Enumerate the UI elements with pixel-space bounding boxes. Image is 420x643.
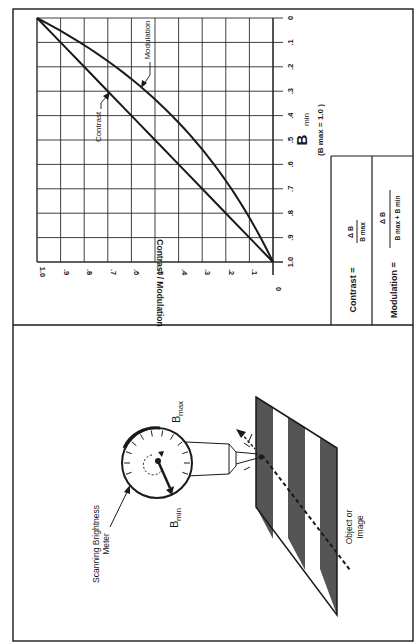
svg-text:B: B (293, 134, 310, 145)
x-tick-label: 0 (286, 16, 295, 20)
meter-dial (122, 428, 192, 498)
figure: 0.1.2.3.4.5.6.7.8.91.0 0.1.2.3.4.5.6.7.8… (0, 0, 420, 643)
y-tick-label: .7 (109, 269, 118, 275)
contrast-formula-den: B max (359, 222, 366, 242)
contrast-formula-num: Δ B (347, 226, 354, 238)
object-label-line2: Image (355, 515, 365, 539)
x-tick-label: .4 (286, 112, 295, 119)
meter-label-line1: Scanning Brightness (91, 505, 101, 583)
x-tick-label: .9 (286, 234, 295, 240)
modulation-formula-lhs: Modulation = (389, 262, 399, 318)
modulation-formula-num: Δ B (379, 212, 386, 224)
x-tick-label: .6 (286, 161, 295, 167)
svg-text:max: max (176, 401, 185, 416)
y-tick-label: .4 (180, 269, 189, 276)
svg-text:min: min (302, 113, 311, 126)
x-tick-label: .1 (286, 39, 295, 45)
light-rays (244, 434, 252, 470)
bmax-label: B max (170, 401, 185, 423)
y-tick-label: 1.0 (38, 267, 47, 277)
y-tick-label: .8 (85, 269, 94, 275)
x-tick-label: .2 (286, 64, 295, 70)
y-axis-label: Contrast / Modulation (155, 239, 165, 326)
y-tick-label: .6 (132, 269, 141, 275)
x-axis-label: B min (293, 113, 311, 145)
y-tick-label: .2 (227, 269, 236, 275)
object-label-line1: Object or (344, 510, 354, 545)
contrast-label: Contrast (94, 111, 103, 142)
x-tick-label: .8 (286, 210, 295, 216)
x-tick-label: .7 (286, 186, 295, 192)
striped-object (256, 397, 337, 615)
modulation-label: Modulation (143, 20, 152, 59)
illustration-panel: B max B min Scanning Brightness Meter Ob… (91, 397, 365, 615)
contrast-formula-lhs: Contrast = (348, 268, 358, 313)
y-tick-label: 0 (274, 287, 283, 291)
x-axis-note: (B max = 1.0 ) (316, 104, 325, 156)
x-tick-label: 1.0 (286, 257, 295, 267)
x-tick-label: .3 (286, 88, 295, 94)
chart-panel: 0.1.2.3.4.5.6.7.8.91.0 0.1.2.3.4.5.6.7.8… (37, 16, 325, 327)
formula-box: Contrast = Δ B B max Modulation = Δ B B … (331, 156, 413, 325)
y-tick-label: .9 (62, 269, 71, 275)
modulation-formula-den: B max + B min (394, 195, 401, 240)
bmin-label: B min (168, 508, 183, 528)
svg-text:min: min (174, 508, 183, 521)
meter-label-line2: Meter (101, 533, 111, 555)
contrast-leader-2 (101, 97, 106, 103)
y-tick-label: .3 (203, 269, 212, 275)
meter-pointer (110, 490, 128, 527)
meter-pointer-arrow-icon (124, 485, 130, 494)
y-tick-label: .1 (250, 269, 259, 275)
